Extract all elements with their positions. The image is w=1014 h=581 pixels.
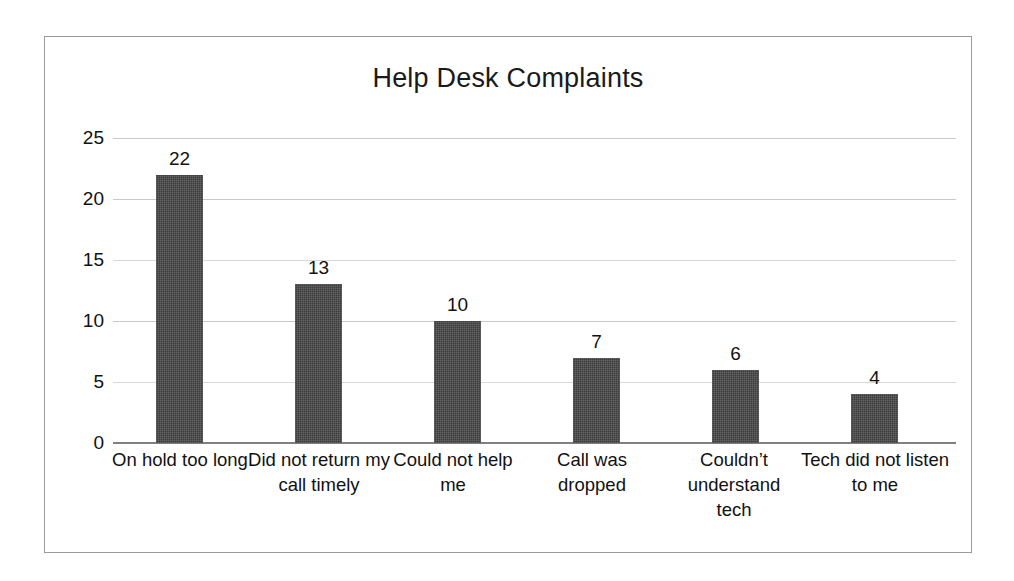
x-axis-label-2: Could not help me — [383, 447, 523, 497]
bar-value-0: 22 — [169, 148, 190, 170]
gridline-10 — [113, 321, 956, 322]
bar-value-1: 13 — [308, 257, 329, 279]
bar-value-3: 7 — [591, 331, 602, 353]
x-axis-label-0: On hold too long — [105, 447, 255, 472]
y-tick-label-0: 0 — [93, 432, 104, 454]
x-axis-label-5: Tech did not listen to me — [800, 447, 950, 497]
y-tick-label-15: 15 — [83, 249, 104, 271]
bar-value-4: 6 — [730, 343, 741, 365]
bar-value-5: 4 — [869, 367, 880, 389]
x-axis-label-4: Couldn’t understand tech — [669, 447, 799, 522]
y-tick-label-20: 20 — [83, 188, 104, 210]
bar-0[interactable] — [156, 175, 203, 443]
bar-1[interactable] — [295, 284, 342, 443]
gridline-15 — [113, 260, 956, 261]
y-tick-label-5: 5 — [93, 371, 104, 393]
y-tick-label-10: 10 — [83, 310, 104, 332]
bar-value-2: 10 — [447, 294, 468, 316]
chart-title: Help Desk Complaints — [45, 63, 971, 94]
gridline-5 — [113, 382, 956, 383]
x-axis-label-1: Did not return my call timely — [244, 447, 394, 497]
gridline-20 — [113, 199, 956, 200]
plot-area: 25 20 15 10 5 0 22 13 10 7 6 4 — [113, 138, 956, 443]
bar-3[interactable] — [573, 358, 620, 443]
x-axis-label-3: Call was dropped — [522, 447, 662, 497]
bar-2[interactable] — [434, 321, 481, 443]
bar-5[interactable] — [851, 394, 898, 443]
chart-frame: Help Desk Complaints 25 20 15 10 5 0 22 … — [44, 36, 972, 553]
bar-4[interactable] — [712, 370, 759, 443]
gridline-25 — [113, 138, 956, 139]
y-tick-label-25: 25 — [83, 127, 104, 149]
x-axis-line — [113, 442, 956, 444]
